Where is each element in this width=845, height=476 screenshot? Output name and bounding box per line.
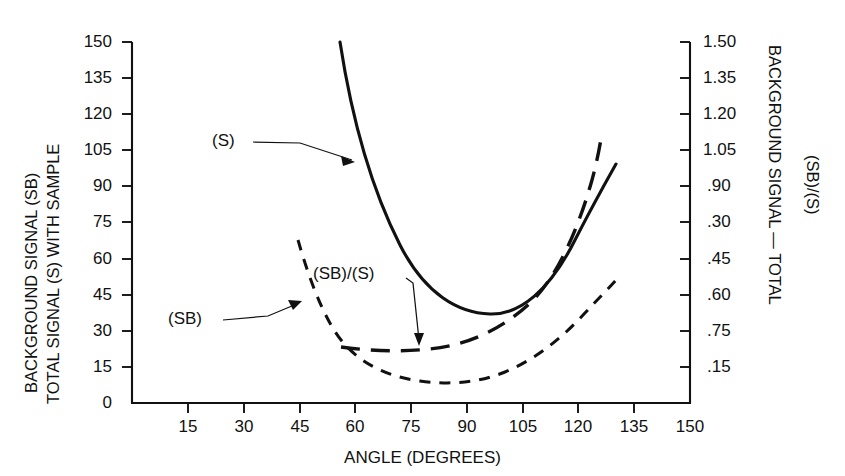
- x-tick-90: 90: [442, 418, 492, 435]
- y-axis-title-right-line2: (SB)/(S): [803, 155, 822, 215]
- x-tick-120: 120: [553, 418, 603, 435]
- curve-label-sb: (SB): [168, 309, 202, 329]
- y-axis-title-left-line2: TOTAL SIGNAL (S) WITH SAMPLE: [44, 144, 63, 404]
- y-right-tick-9: .75: [707, 322, 769, 339]
- annotation-leader-sb-over-s: [406, 278, 424, 346]
- annotation-leader-s: [253, 142, 355, 166]
- curve-sb-over-s: [341, 133, 602, 351]
- y-right-tick-3: 1.20: [703, 105, 765, 122]
- y-left-tick-135: 135: [52, 69, 112, 86]
- y-axis-title-left-line1: BACKGROUND SIGNAL (SB): [22, 173, 41, 393]
- y-left-tick-120: 120: [52, 105, 112, 122]
- y-right-tick-8: .60: [707, 286, 769, 303]
- y-right-tick-5: .90: [707, 177, 769, 194]
- x-tick-75: 75: [386, 418, 436, 435]
- y-right-tick-1: 1.50: [703, 33, 765, 50]
- x-tick-135: 135: [609, 418, 659, 435]
- y-right-tick-6: .30: [707, 213, 769, 230]
- y-left-tick-150: 150: [52, 33, 112, 50]
- right-axis-ticks: [680, 42, 690, 367]
- x-tick-45: 45: [275, 418, 325, 435]
- figure-root: 150 135 120 105 90 75 60 45 30 15 0 1.50…: [0, 0, 845, 476]
- chart-canvas: 150 135 120 105 90 75 60 45 30 15 0 1.50…: [0, 0, 845, 476]
- x-tick-60: 60: [330, 418, 380, 435]
- curve-label-s: (S): [212, 131, 235, 151]
- curve-sb: [298, 240, 617, 383]
- annotation-leader-sb: [223, 300, 302, 320]
- x-axis-ticks: [188, 403, 634, 413]
- x-tick-150: 150: [665, 418, 715, 435]
- x-tick-30: 30: [219, 418, 269, 435]
- x-tick-15: 15: [163, 418, 213, 435]
- curve-s: [340, 42, 616, 314]
- y-axis-title-right-line1: BACKGROUND SIGNAL — TOTAL: [765, 45, 784, 305]
- y-right-tick-10: .15: [707, 358, 769, 375]
- left-axis-ticks: [122, 42, 132, 367]
- y-right-tick-7: .45: [707, 250, 769, 267]
- y-right-tick-4: 1.05: [703, 141, 765, 158]
- y-right-tick-2: 1.35: [703, 69, 765, 86]
- curve-label-sb-over-s: (SB)/(S): [313, 264, 374, 284]
- x-tick-105: 105: [498, 418, 548, 435]
- x-axis-title: ANGLE (DEGREES): [0, 448, 845, 468]
